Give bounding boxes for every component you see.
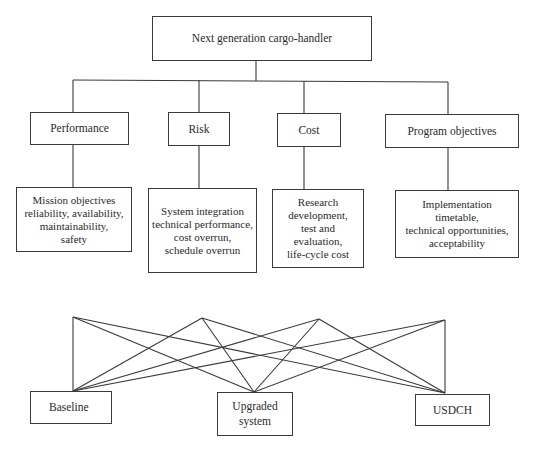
criterion-label: Cost bbox=[298, 123, 319, 138]
subcriteria-label: System integration technical performance… bbox=[152, 205, 253, 257]
subcriteria-label: Research development, test and evaluatio… bbox=[287, 196, 349, 261]
subcriteria-program-objectives: Implementation timetable, technical oppo… bbox=[395, 190, 519, 258]
subcriteria-risk: System integration technical performance… bbox=[148, 188, 257, 273]
goal-label: Next generation cargo-handler bbox=[192, 31, 332, 46]
subcriteria-performance: Mission objectives reliability, availabi… bbox=[16, 187, 132, 252]
criterion-risk: Risk bbox=[168, 112, 230, 146]
subcriteria-label: Implementation timetable, technical oppo… bbox=[405, 198, 508, 250]
alternative-baseline: Baseline bbox=[30, 391, 112, 424]
alternative-label: Baseline bbox=[49, 400, 89, 415]
goal-node: Next generation cargo-handler bbox=[152, 16, 372, 61]
criteria-bus-line bbox=[73, 80, 448, 82]
subcriteria-cost: Research development, test and evaluatio… bbox=[272, 189, 364, 268]
criterion-label: Performance bbox=[50, 121, 109, 136]
subcriteria-label: Mission objectives reliability, availabi… bbox=[24, 194, 123, 246]
alternative-label: Upgraded system bbox=[232, 399, 277, 429]
alternative-label: USDCH bbox=[433, 403, 472, 418]
criterion-label: Program objectives bbox=[407, 124, 496, 139]
alternative-upgraded-system: Upgraded system bbox=[217, 392, 293, 436]
criterion-program-objectives: Program objectives bbox=[385, 114, 519, 148]
criterion-cost: Cost bbox=[277, 113, 341, 147]
alternative-usdch: USDCH bbox=[415, 394, 490, 426]
criterion-performance: Performance bbox=[30, 112, 129, 145]
alternative-links bbox=[73, 317, 445, 393]
ahp-hierarchy-diagram: Next generation cargo-handler Performanc… bbox=[0, 0, 533, 449]
criterion-label: Risk bbox=[188, 122, 209, 137]
